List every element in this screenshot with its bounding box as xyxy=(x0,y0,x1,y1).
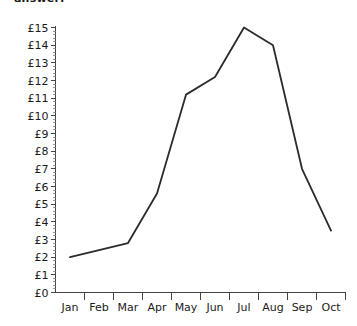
x-axis-tick-label: Jun xyxy=(205,301,223,314)
y-axis-tick-label: £3 xyxy=(35,234,49,247)
y-axis-tick-label: £10 xyxy=(28,110,49,123)
x-axis-tick-label: Apr xyxy=(147,301,167,314)
y-axis-tick-label: £1 xyxy=(35,269,49,282)
data-series-group xyxy=(70,28,331,258)
x-axis-tick-label: Jan xyxy=(61,301,79,314)
y-axis-tick-label: £2 xyxy=(35,251,49,264)
y-axis: £0£1£2£3£4£5£6£7£8£9£10£11£12£13£14£15 xyxy=(28,22,56,300)
x-axis-tick-label: May xyxy=(175,301,198,314)
series-line-0 xyxy=(70,28,331,258)
chart-page: answer: £0£1£2£3£4£5£6£7£8£9£10£11£12£13… xyxy=(0,0,357,326)
y-axis-tick-label: £15 xyxy=(28,22,49,35)
y-axis-tick-label: £11 xyxy=(28,92,49,105)
y-axis-tick-label: £12 xyxy=(28,75,49,88)
y-axis-tick-label: £4 xyxy=(35,216,49,229)
x-axis-tick-label: Aug xyxy=(262,301,283,314)
y-axis-tick-label: £8 xyxy=(35,145,49,158)
y-axis-tick-label: £7 xyxy=(35,163,49,176)
y-axis-tick-label: £5 xyxy=(35,198,49,211)
y-axis-tick-label: £14 xyxy=(28,39,49,52)
x-axis-tick-label: Mar xyxy=(118,301,139,314)
y-axis-tick-label: £6 xyxy=(35,181,49,194)
y-axis-tick-label: £9 xyxy=(35,128,49,141)
x-axis-tick-label: Jul xyxy=(236,301,250,314)
x-axis-tick-label: Sep xyxy=(292,301,313,314)
x-axis-tick-label: Feb xyxy=(89,301,108,314)
y-axis-tick-label: £0 xyxy=(35,287,49,300)
x-axis: JanFebMarAprMayJunJulAugSepOct xyxy=(52,293,346,314)
chart-canvas: £0£1£2£3£4£5£6£7£8£9£10£11£12£13£14£15 J… xyxy=(0,0,357,326)
line-chart: £0£1£2£3£4£5£6£7£8£9£10£11£12£13£14£15 J… xyxy=(0,0,357,326)
y-axis-tick-label: £13 xyxy=(28,57,49,70)
x-axis-tick-label: Oct xyxy=(321,301,341,314)
